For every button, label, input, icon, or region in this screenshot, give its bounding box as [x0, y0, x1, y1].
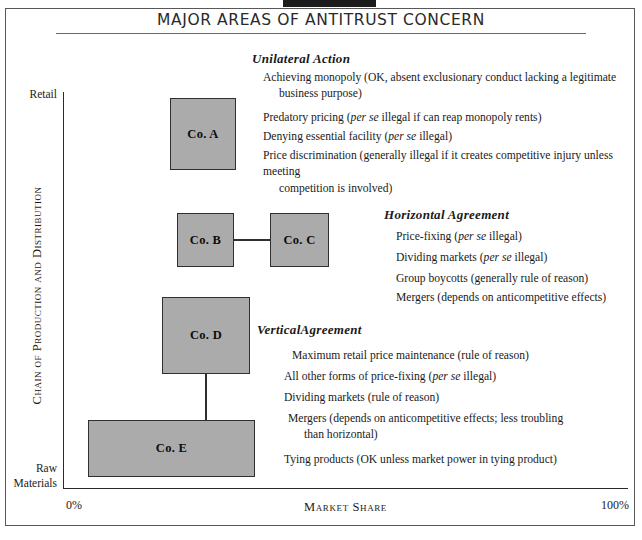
horizontal-item-2-pre: Dividing markets (: [396, 251, 484, 264]
unilateral-item-2-pre: Predatory pricing (: [263, 111, 351, 124]
horizontal-item-1: Price-fixing (per se illegal): [396, 229, 522, 245]
section-heading-vertical: VerticalAgreement: [257, 322, 362, 338]
y-axis-bottom-label-line2: Materials: [0, 477, 57, 489]
horizontal-item-3-pre: Group boycotts (generally rule of reason…: [396, 272, 588, 285]
horizontal-item-1-post: illegal): [486, 230, 522, 243]
horizontal-item-4-pre: Mergers (depends on anticompetitive effe…: [396, 291, 606, 304]
company-box-c: Co. C: [270, 213, 329, 267]
y-axis-title: Chain of Production and Distribution: [30, 116, 45, 476]
horizontal-item-2-post: illegal): [512, 251, 548, 264]
horizontal-item-2: Dividing markets (per se illegal): [396, 250, 547, 266]
vertical-item-2: All other forms of price-fixing (per se …: [284, 369, 496, 385]
unilateral-item-2-post: illegal if can reap monopoly rents): [379, 111, 542, 124]
horizontal-item-2-em: per se: [484, 251, 512, 264]
unilateral-item-3: Denying essential facility (per se illeg…: [263, 129, 633, 145]
vertical-item-5-pre: Tying products (OK unless market power i…: [284, 453, 557, 466]
company-box-e: Co. E: [88, 420, 255, 477]
antitrust-diagram: MAJOR AREAS OF ANTITRUST CONCERN Retail …: [0, 0, 642, 540]
company-box-a: Co. A: [170, 98, 236, 170]
vertical-item-4-line2: than horizontal): [304, 427, 378, 443]
company-box-d: Co. D: [162, 297, 250, 374]
horizontal-item-3: Group boycotts (generally rule of reason…: [396, 271, 588, 287]
section-heading-unilateral: Unilateral Action: [252, 51, 350, 67]
connector-b-to-c: [234, 239, 271, 241]
x-axis-line: [63, 488, 628, 489]
horizontal-item-1-em: per se: [458, 230, 486, 243]
unilateral-item-3-post: illegal): [416, 130, 452, 143]
section-heading-horizontal: Horizontal Agreement: [384, 207, 509, 223]
cropped-header-tab: [283, 0, 376, 7]
connector-d-to-e: [205, 374, 207, 421]
unilateral-item-1-line2: business purpose): [279, 86, 362, 102]
horizontal-item-1-pre: Price-fixing (: [396, 230, 458, 243]
vertical-item-3-pre: Dividing markets (rule of reason): [284, 391, 439, 404]
unilateral-item-4-line2: competition is involved): [279, 181, 392, 197]
unilateral-item-3-em: per se: [388, 130, 416, 143]
unilateral-item-1: Achieving monopoly (OK, absent exclusion…: [263, 70, 633, 103]
vertical-item-2-pre: All other forms of price-fixing (: [284, 370, 432, 383]
vertical-item-3: Dividing markets (rule of reason): [284, 390, 439, 406]
unilateral-item-3-pre: Denying essential facility (: [263, 130, 388, 143]
figure-title: MAJOR AREAS OF ANTITRUST CONCERN: [0, 11, 642, 29]
vertical-item-2-em: per se: [432, 370, 460, 383]
unilateral-item-4: Price discrimination (generally illegal …: [263, 148, 635, 197]
horizontal-item-4: Mergers (depends on anticompetitive effe…: [396, 290, 606, 306]
x-axis-title: Market Share: [63, 500, 628, 515]
vertical-item-1-pre: Maximum retail price maintenance (rule o…: [292, 349, 529, 362]
company-box-b: Co. B: [177, 213, 234, 267]
vertical-item-4-line1: Mergers (depends on anticompetitive effe…: [288, 412, 563, 425]
vertical-item-2-post: illegal): [460, 370, 496, 383]
vertical-item-4: Mergers (depends on anticompetitive effe…: [288, 411, 628, 444]
vertical-item-5: Tying products (OK unless market power i…: [284, 452, 557, 468]
unilateral-item-2-em: per se: [351, 111, 379, 124]
y-axis-bottom-label-line1: Raw: [0, 462, 57, 474]
unilateral-item-2: Predatory pricing (per se illegal if can…: [263, 110, 633, 126]
title-divider: [56, 33, 586, 34]
unilateral-item-4-line1: Price discrimination (generally illegal …: [263, 149, 613, 178]
y-axis-top-label: Retail: [0, 88, 57, 100]
y-axis-line: [63, 92, 64, 488]
vertical-item-1: Maximum retail price maintenance (rule o…: [292, 348, 529, 364]
unilateral-item-1-line1: Achieving monopoly (OK, absent exclusion…: [263, 71, 616, 84]
